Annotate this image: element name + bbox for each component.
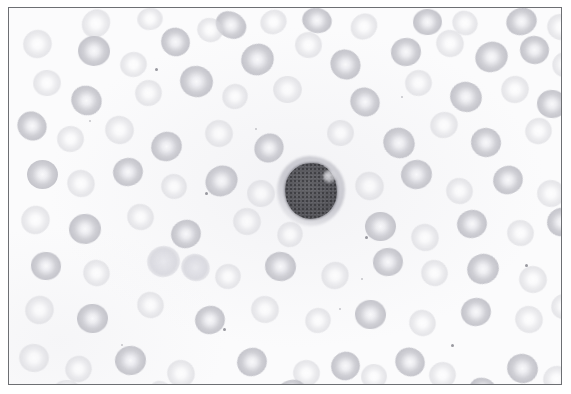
platelet-speck	[339, 308, 341, 310]
platelet-speck	[89, 120, 91, 122]
microscope-field	[9, 8, 561, 384]
platelet-speck	[525, 264, 528, 267]
platelet-speck	[401, 96, 403, 98]
platelet-speck	[155, 68, 158, 71]
platelet-speck	[255, 128, 257, 130]
micrograph-figure	[0, 0, 571, 394]
platelet-speck	[121, 344, 123, 346]
platelet-speck	[223, 328, 226, 331]
platelet-speck	[365, 236, 368, 239]
leukocyte-cell	[277, 156, 345, 226]
erythrocyte	[27, 160, 58, 189]
platelet-speck	[451, 344, 454, 347]
platelet-speck	[361, 278, 363, 280]
nucleus-notch	[323, 170, 336, 183]
platelet-speck	[205, 192, 208, 195]
micrograph-frame	[8, 7, 562, 385]
